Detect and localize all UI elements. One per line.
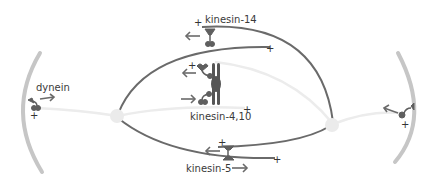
spindle-diagram: dynein kinesin-14 kinesin-4,10 kinesin-5…: [0, 0, 438, 188]
left-astral-microtubule: [36, 108, 118, 116]
kinesin-4-10-upper-motor: [197, 64, 213, 79]
spindle-diagram-svg: [0, 0, 438, 188]
left-dynein-motor: [28, 98, 41, 111]
plus-end-kinesin-4-10-bottom: +: [243, 105, 251, 115]
left-spindle-pole: [110, 109, 124, 123]
plus-end-kinesin-14-top: +: [194, 18, 202, 28]
right-astral-microtubule: [333, 112, 400, 124]
chromosome: [211, 63, 221, 105]
plus-end-top-inner: +: [266, 44, 274, 54]
left-dynein-arrow-right: [40, 94, 54, 101]
kinesin-4-10-arrow-right: [181, 95, 195, 103]
plus-end-right-dynein: +: [401, 120, 409, 130]
kinesin-5-motor: [223, 146, 234, 160]
kinesin-14-arrow-left: [186, 32, 200, 40]
plus-end-kinesin-5-bottom: +: [273, 155, 281, 165]
plus-end-left-dynein: +: [30, 111, 38, 121]
mt-bottom-right: [218, 126, 330, 147]
right-spindle-pole: [325, 118, 339, 132]
right-dynein-motor: [399, 103, 414, 118]
label-kinesin-5: kinesin-5: [186, 164, 231, 174]
label-kinesin-14: kinesin-14: [205, 15, 257, 25]
plus-end-kinesin-5-top: +: [218, 138, 226, 148]
right-cortex: [395, 53, 414, 162]
kinesin-4-10-lower-motor: [199, 92, 212, 105]
kinesin-14-motor: [205, 29, 215, 47]
mt-bottom-left: [118, 118, 275, 158]
plus-end-kinesin-4-10-top: +: [188, 61, 196, 71]
label-dynein: dynein: [36, 83, 70, 93]
kinesin-5-arrow-right: [232, 164, 247, 172]
